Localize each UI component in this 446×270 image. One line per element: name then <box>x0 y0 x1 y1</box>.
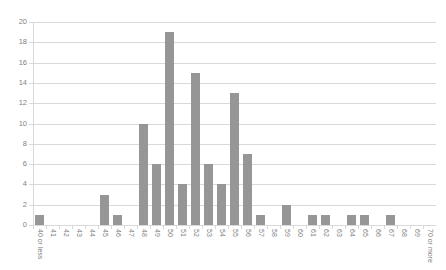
x-axis-tick-label: 70 or more <box>426 229 433 263</box>
bar <box>139 124 148 226</box>
y-axis-tick-label: 4 <box>23 181 27 189</box>
x-axis-slot: 61 <box>306 226 319 270</box>
bar-slot <box>33 22 46 225</box>
x-axis-slot: 56 <box>241 226 254 270</box>
bar-slot <box>254 22 267 225</box>
bar <box>217 184 226 225</box>
x-axis-slot: 62 <box>319 226 332 270</box>
x-axis-tick <box>215 226 216 229</box>
bar-slot <box>72 22 85 225</box>
x-axis-tick <box>280 226 281 229</box>
x-axis-tick <box>202 226 203 229</box>
bar-slot <box>59 22 72 225</box>
x-axis-tick <box>306 226 307 229</box>
x-axis-tick-label: 61 <box>309 229 316 237</box>
x-axis-tick-label: 46 <box>114 229 121 237</box>
bar-slot <box>319 22 332 225</box>
x-axis-tick-label: 69 <box>413 229 420 237</box>
bar <box>282 205 291 225</box>
bar <box>230 93 239 225</box>
x-axis-tick <box>33 226 34 229</box>
x-axis-slot: 40 or less <box>33 226 46 270</box>
bar-slot <box>111 22 124 225</box>
x-axis-tick <box>293 226 294 229</box>
bar-slot <box>46 22 59 225</box>
x-axis-tick <box>384 226 385 229</box>
x-axis-tick <box>124 226 125 229</box>
x-axis-slot: 51 <box>176 226 189 270</box>
bar-slot <box>332 22 345 225</box>
bar-slot <box>267 22 280 225</box>
x-axis-tick <box>46 226 47 229</box>
x-axis-tick-label: 64 <box>348 229 355 237</box>
x-axis-tick-label: 55 <box>231 229 238 237</box>
bar-slot <box>85 22 98 225</box>
x-axis-tick <box>59 226 60 229</box>
histogram-chart: 02468101214161820 40 or less414243444546… <box>0 0 446 270</box>
bar-slot <box>202 22 215 225</box>
x-axis-slot: 48 <box>137 226 150 270</box>
x-axis-tick <box>371 226 372 229</box>
x-axis-slot: 44 <box>85 226 98 270</box>
x-axis-slot: 50 <box>163 226 176 270</box>
y-axis-tick-label: 20 <box>19 18 27 26</box>
x-axis-tick-label: 65 <box>361 229 368 237</box>
x-axis-tick <box>241 226 242 229</box>
y-axis-tick-label: 16 <box>19 59 27 67</box>
bar-slot <box>150 22 163 225</box>
x-axis-tick <box>358 226 359 229</box>
x-axis-tick-label: 67 <box>387 229 394 237</box>
x-axis-tick-label: 41 <box>49 229 56 237</box>
x-axis-tick-label: 68 <box>400 229 407 237</box>
bar <box>256 215 265 225</box>
x-axis-tick-label: 51 <box>179 229 186 237</box>
x-axis-tick-label: 58 <box>270 229 277 237</box>
bar-slot <box>163 22 176 225</box>
bar-slot <box>228 22 241 225</box>
x-axis-slot: 53 <box>202 226 215 270</box>
bar <box>386 215 395 225</box>
bar-slot <box>280 22 293 225</box>
x-axis-tick-label: 50 <box>166 229 173 237</box>
x-axis-tick-label: 57 <box>257 229 264 237</box>
y-axis-tick-label: 10 <box>19 120 27 128</box>
bar <box>178 184 187 225</box>
x-axis-tick <box>423 226 424 229</box>
x-axis-tick-label: 56 <box>244 229 251 237</box>
x-axis-slot: 58 <box>267 226 280 270</box>
x-axis-tick-label: 53 <box>205 229 212 237</box>
x-axis-tick-label: 54 <box>218 229 225 237</box>
bar <box>308 215 317 225</box>
x-axis-slot: 63 <box>332 226 345 270</box>
x-axis-tick-label: 48 <box>140 229 147 237</box>
x-axis-tick-label: 45 <box>101 229 108 237</box>
y-axis-tick-label: 8 <box>23 140 27 148</box>
x-axis-slot: 66 <box>371 226 384 270</box>
x-axis-slot: 60 <box>293 226 306 270</box>
x-axis-slot: 52 <box>189 226 202 270</box>
x-axis-tick-label: 49 <box>153 229 160 237</box>
x-axis-tick-label: 63 <box>335 229 342 237</box>
x-axis-tick <box>163 226 164 229</box>
x-axis-slot: 67 <box>384 226 397 270</box>
bar-slot <box>241 22 254 225</box>
x-axis-tick <box>176 226 177 229</box>
x-axis-tick-label: 43 <box>75 229 82 237</box>
bar <box>321 215 330 225</box>
bar-slot <box>410 22 423 225</box>
bar-slot <box>371 22 384 225</box>
x-axis-tick-label: 60 <box>296 229 303 237</box>
bar-slot <box>358 22 371 225</box>
x-axis-slot: 54 <box>215 226 228 270</box>
x-axis-tick <box>267 226 268 229</box>
x-axis-tick <box>345 226 346 229</box>
bar <box>100 195 109 225</box>
x-axis-tick-label: 59 <box>283 229 290 237</box>
x-axis-tick-label: 42 <box>62 229 69 237</box>
x-axis-tick <box>137 226 138 229</box>
x-axis-tick-label: 62 <box>322 229 329 237</box>
x-axis-slot: 68 <box>397 226 410 270</box>
bar <box>191 73 200 225</box>
x-axis-slot: 64 <box>345 226 358 270</box>
bar-series <box>33 22 436 225</box>
